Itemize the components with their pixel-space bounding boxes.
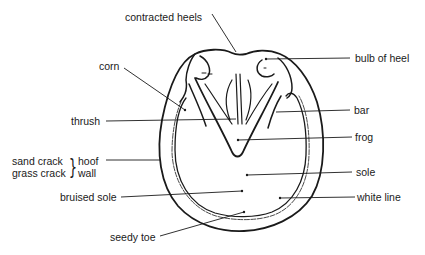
hoof-diagram: [0, 0, 425, 255]
label-frog: frog: [355, 131, 373, 143]
leader-bar: [276, 110, 350, 112]
label-thrush: thrush: [71, 115, 100, 127]
leader-seedy-toe: [160, 212, 244, 236]
hoof-wall-outline: [159, 50, 323, 231]
leader-bruised-sole: [121, 191, 242, 197]
leader-frog: [238, 137, 352, 140]
leader-contracted-heels: [212, 14, 236, 52]
brace-symbol: }: [69, 156, 77, 178]
leader-sole: [247, 172, 352, 175]
label-sole: sole: [356, 166, 375, 178]
label-white-line: white line: [357, 191, 401, 203]
label-grass-crack: grass crack: [12, 167, 66, 179]
label-bulb-of-heel: bulb of heel: [355, 52, 409, 64]
label-bar: bar: [354, 104, 369, 116]
label-bruised-sole: bruised sole: [60, 191, 117, 203]
label-sand-crack: sand crack: [12, 155, 63, 167]
label-seedy-toe: seedy toe: [110, 231, 156, 243]
label-wall: wall: [78, 167, 96, 179]
right-bulb: [257, 58, 292, 98]
label-corn: corn: [99, 60, 119, 72]
label-contracted-heels: contracted heels: [125, 11, 202, 23]
label-hoof: hoof: [78, 155, 98, 167]
